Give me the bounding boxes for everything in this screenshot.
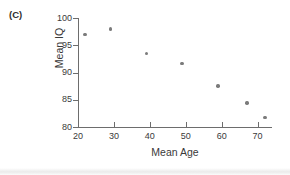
- x-axis-tick: [222, 122, 223, 127]
- x-axis-tick-label: 60: [207, 131, 237, 141]
- x-axis-tick-label: 20: [63, 131, 93, 141]
- x-axis-tick: [114, 122, 115, 127]
- scatter-point: [245, 101, 248, 104]
- x-axis-tick: [78, 122, 79, 127]
- x-axis-tick: [186, 122, 187, 127]
- scan-artifact: [0, 168, 290, 175]
- y-axis-tick: [73, 100, 78, 101]
- y-axis-tick-label: 85: [44, 95, 72, 104]
- x-axis-tick-label: 40: [135, 131, 165, 141]
- scatter-point: [216, 84, 219, 87]
- figure-panel-c: (C) 80859095100 203040506070 Mean Age Me…: [0, 0, 290, 175]
- scatter-point: [263, 116, 266, 119]
- x-axis-tick-label: 70: [243, 131, 273, 141]
- y-axis-tick: [73, 45, 78, 46]
- x-axis-tick-label: 50: [171, 131, 201, 141]
- x-axis-line: [78, 127, 272, 128]
- y-axis-line: [78, 18, 79, 128]
- y-axis-tick: [73, 18, 78, 19]
- y-axis-tick: [73, 73, 78, 74]
- panel-label: (C): [9, 9, 22, 20]
- scatter-point: [180, 62, 183, 65]
- scatter-point: [109, 27, 112, 30]
- x-axis-title: Mean Age: [78, 146, 272, 158]
- x-axis-tick: [150, 122, 151, 127]
- scatter-point: [145, 52, 148, 55]
- x-axis-tick-label: 30: [99, 131, 129, 141]
- scatter-point: [83, 33, 86, 36]
- y-axis-title: Mean IQ: [53, 13, 65, 83]
- y-axis-tick: [73, 127, 78, 128]
- x-axis-tick: [258, 122, 259, 127]
